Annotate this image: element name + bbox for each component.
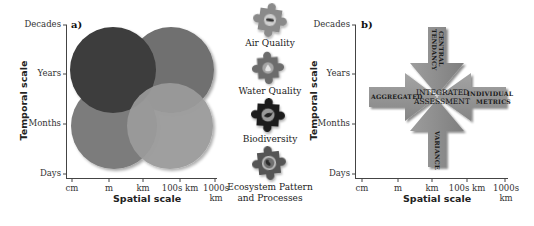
x-axis-title-b: Spatial scale <box>403 193 471 204</box>
x-tick-cm-b: cm <box>342 183 382 193</box>
x-tick-1000s-b: 1000s <box>486 183 526 193</box>
label-individual: INDIVIDUAL <box>467 90 514 97</box>
label-metrics: METRICS <box>476 98 511 105</box>
label-integrated: INTEGRATED <box>416 88 469 97</box>
x-tick-1000s-km-b: km <box>486 193 526 203</box>
y-tick-decades-b: Decades <box>300 19 350 29</box>
label-assessment: ASSESSMENT <box>413 97 470 106</box>
label-variance: VARIANCE <box>434 130 441 170</box>
label-tendancy: TENDANCY <box>431 29 438 71</box>
y-tick-years-b: Years <box>300 68 350 78</box>
y-tick-months-b: Months <box>300 118 350 128</box>
panel-b-label: b) <box>361 19 373 30</box>
y-tick-days-b: Days <box>300 168 350 178</box>
label-central: CENTRAL <box>438 31 445 67</box>
x-tick-100s-km-b: 100s km <box>447 183 487 193</box>
x-tick-km-b: km <box>412 183 452 193</box>
